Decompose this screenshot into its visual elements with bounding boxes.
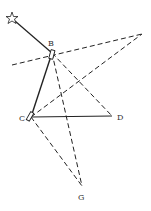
geometry-diagram: B C D G [0,0,151,211]
label-B: B [48,39,54,48]
line-star-B [15,21,52,53]
dashed-line-C-G [31,117,82,186]
label-C: C [19,114,25,123]
label-D: D [117,113,123,122]
dashed-line-L-T [12,34,142,65]
line-C-D [31,116,112,117]
label-G: G [78,193,84,202]
line-B-C [31,53,52,117]
dashed-line-B-D [52,53,112,116]
